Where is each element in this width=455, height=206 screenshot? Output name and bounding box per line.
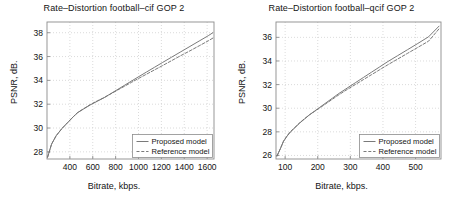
x-tick-label: 800 (109, 162, 123, 172)
x-tick-label: 1600 (198, 162, 217, 172)
y-tick-label: 34 (34, 75, 44, 85)
x-tick-label: 200 (311, 162, 325, 172)
x-tick-label: 600 (86, 162, 100, 172)
y-tick-label: 26 (263, 150, 273, 160)
y-tick-label: 38 (34, 28, 44, 38)
y-tick-label: 32 (34, 99, 44, 109)
x-tick-label: 1400 (175, 162, 194, 172)
y-tick-label: 36 (263, 32, 273, 42)
y-tick-label: 32 (263, 80, 273, 90)
x-tick-label: 400 (63, 162, 77, 172)
legend-label: Proposed model (379, 137, 435, 146)
figure-root: Rate–Distortion football–cif GOP 2 PSNR,… (0, 0, 455, 206)
plot-area-right: 100200300400500262830323436Proposed mode… (228, 0, 455, 206)
chart-panel-football-cif: Rate–Distortion football–cif GOP 2 PSNR,… (0, 0, 228, 206)
chart-panel-football-qcif: Rate–Distortion football–qcif GOP 2 PSNR… (228, 0, 455, 206)
x-tick-label: 500 (408, 162, 422, 172)
y-tick-label: 30 (34, 123, 44, 133)
legend-label: Reference model (379, 147, 437, 156)
x-tick-label: 1200 (152, 162, 171, 172)
y-tick-label: 36 (34, 52, 44, 62)
legend-label: Reference model (152, 147, 210, 156)
y-tick-label: 34 (263, 56, 273, 66)
plot-area-left: 4006008001000120014001600283032343638Pro… (0, 0, 228, 206)
x-tick-label: 300 (343, 162, 357, 172)
legend-label: Proposed model (152, 137, 208, 146)
legend[interactable]: Proposed modelReference model (133, 135, 213, 158)
y-tick-label: 28 (263, 127, 273, 137)
legend[interactable]: Proposed modelReference model (360, 135, 440, 158)
x-tick-label: 1000 (129, 162, 148, 172)
x-tick-label: 400 (376, 162, 390, 172)
x-tick-label: 100 (278, 162, 292, 172)
y-tick-label: 28 (34, 147, 44, 157)
y-tick-label: 30 (263, 103, 273, 113)
